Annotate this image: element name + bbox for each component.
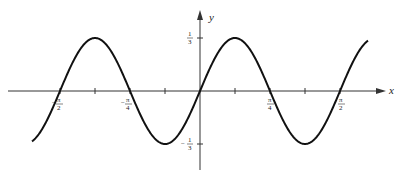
svg-text:3: 3 xyxy=(188,38,192,46)
tick-label-one-third: 1 3 xyxy=(187,30,193,46)
svg-text:π: π xyxy=(126,96,130,104)
svg-text:−: − xyxy=(181,140,185,148)
svg-text:2: 2 xyxy=(57,104,61,112)
sine-graph: x y − π 2 − π 4 π 4 π 2 xyxy=(0,0,403,175)
y-axis-arrow-icon xyxy=(197,10,203,20)
x-axis-label: x xyxy=(388,84,394,96)
svg-text:−: − xyxy=(121,99,125,107)
svg-text:4: 4 xyxy=(268,104,272,112)
y-axis-label: y xyxy=(208,11,214,23)
svg-text:4: 4 xyxy=(126,104,130,112)
svg-text:π: π xyxy=(268,96,272,104)
svg-text:π: π xyxy=(339,96,343,104)
tick-label-pi-2: π 2 xyxy=(338,96,345,112)
x-axis-arrow-icon xyxy=(376,88,386,94)
tick-label-neg-one-third: − 1 3 xyxy=(181,136,193,152)
svg-text:2: 2 xyxy=(339,104,343,112)
tick-label-neg-pi-4: − π 4 xyxy=(121,96,132,112)
svg-text:1: 1 xyxy=(188,30,192,38)
svg-text:1: 1 xyxy=(188,136,192,144)
svg-text:3: 3 xyxy=(188,144,192,152)
